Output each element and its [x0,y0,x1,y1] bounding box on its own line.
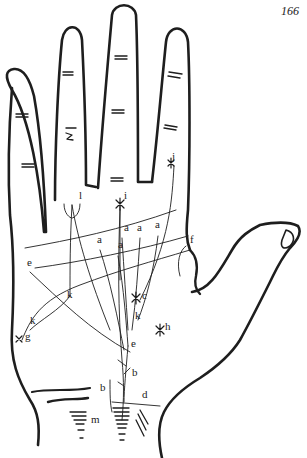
label-g: g [25,331,31,342]
label-k1: k [67,289,73,300]
ring-finger [55,27,96,200]
label-a1: a [124,222,129,233]
label-c: c [142,290,147,301]
star-c [132,292,140,304]
index-finger [152,29,190,251]
finger-crease-squiggle [66,133,73,140]
label-j: j [172,151,175,162]
hand-outline-drawing [0,0,307,458]
wrist-crease-2 [48,398,88,402]
label-k3: k [30,315,36,326]
line-e-down [30,272,130,352]
star-g [16,336,22,342]
star-i [116,198,124,210]
label-f: f [190,234,194,245]
label-a3: a [155,219,160,230]
thumb-web [190,250,200,294]
label-a2: a [137,222,142,233]
label-i: i [124,190,127,201]
label-h: h [165,321,171,332]
label-e2: e [131,338,136,349]
thumb [159,223,299,458]
star-h [156,324,164,336]
label-m: m [91,414,100,425]
palm-diagram: 166 jilaaaaafekckhkgebbdm [0,0,307,458]
wrist-hatch-d [113,408,129,440]
thumb-base-hatch [136,410,148,436]
label-l: l [79,190,82,201]
line-l [70,205,110,330]
wrist-crease-1 [32,388,90,392]
line-f [178,246,186,276]
label-a4: a [97,234,102,245]
line-h [110,380,112,412]
thumb-nail [281,230,293,248]
label-d: d [142,389,148,400]
label-b2: b [100,382,106,393]
head-line [35,236,188,268]
page-number: 166 [281,4,299,19]
line-d [112,402,160,406]
line-j [140,166,174,300]
label-k2: k [135,310,141,321]
line-b [118,346,130,402]
label-a5: a [118,239,123,250]
label-e1: e [27,257,32,268]
wrist-hatch-m [70,412,86,438]
middle-finger [98,5,152,188]
label-b1: b [132,367,138,378]
